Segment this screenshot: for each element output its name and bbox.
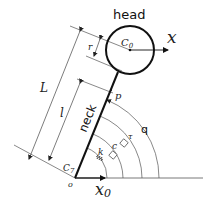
damping-c-label: c [112,141,117,151]
dimension-l [49,83,80,160]
extension-line-bottom [14,145,75,178]
length-l-label: l [60,106,64,120]
arc-k [87,148,107,178]
dimension-L [29,31,80,159]
x0-axis-label: x0 [95,180,111,200]
stiffness-k-label: k [98,147,103,157]
point-p-label: p [115,90,122,101]
point-p [110,89,112,91]
arc-tau [100,116,142,178]
length-L-label: L [39,81,48,95]
vertebra-c7-label: C7 [63,163,75,175]
arc-q [107,100,159,178]
neck-label: neck [76,102,100,134]
head-neck-diagram: head C0 x r p L l neck C7 o x0 q τ c k [0,0,205,203]
torque-tau-label: τ [128,132,133,141]
head-center-label: C0 [121,37,134,50]
head-label: head [113,7,145,22]
x-axis-label: x [167,27,177,47]
actuator-tau-icon [120,139,128,147]
radius-r-label: r [88,42,93,52]
extension-line-p [77,79,113,93]
dimension-r [94,39,100,56]
origin-o-label: o [68,180,73,189]
damper-c-icon [109,151,117,159]
angle-q-label: q [141,123,148,136]
